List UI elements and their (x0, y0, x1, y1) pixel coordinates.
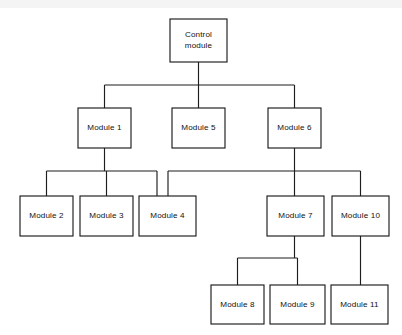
node-label-control: module (185, 41, 213, 50)
scan-artifact-band (0, 0, 402, 8)
node-m7[interactable]: Module 7 (267, 196, 324, 236)
node-m9[interactable]: Module 9 (270, 285, 325, 324)
node-control[interactable]: Controlmodule (170, 19, 227, 62)
node-label-m9: Module 9 (280, 300, 315, 309)
node-label-m10: Module 10 (341, 211, 380, 220)
node-m3[interactable]: Module 3 (80, 196, 133, 236)
structure-chart-container: ControlmoduleModule 1Module 5Module 6Mod… (0, 0, 402, 335)
structure-chart-canvas: ControlmoduleModule 1Module 5Module 6Mod… (0, 0, 402, 335)
connector-layer (47, 62, 361, 285)
node-label-m11: Module 11 (340, 300, 379, 309)
node-label-m5: Module 5 (181, 123, 216, 132)
node-m2[interactable]: Module 2 (20, 196, 73, 236)
node-label-m7: Module 7 (278, 211, 313, 220)
node-label-m6: Module 6 (277, 123, 312, 132)
node-m4[interactable]: Module 4 (139, 196, 196, 236)
node-m10[interactable]: Module 10 (332, 196, 389, 236)
node-label-m8: Module 8 (220, 300, 255, 309)
node-m1[interactable]: Module 1 (78, 108, 131, 148)
node-label-m2: Module 2 (29, 211, 64, 220)
node-label-m3: Module 3 (89, 211, 124, 220)
node-label-m4: Module 4 (150, 211, 185, 220)
node-m6[interactable]: Module 6 (268, 108, 321, 148)
node-label-control: Control (185, 30, 212, 39)
node-m11[interactable]: Module 11 (331, 285, 388, 324)
node-label-m1: Module 1 (87, 123, 122, 132)
node-m5[interactable]: Module 5 (172, 108, 225, 148)
node-m8[interactable]: Module 8 (211, 285, 264, 324)
